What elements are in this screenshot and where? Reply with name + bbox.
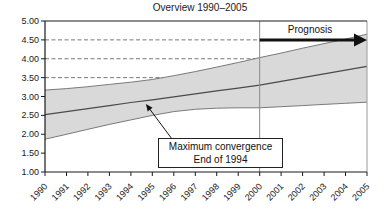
chart-title: Overview 1990–2005 bbox=[30, 2, 370, 13]
y-tick-label: 1.50 bbox=[21, 148, 39, 158]
x-tick-label: 1998 bbox=[200, 181, 221, 202]
x-tick-label: 1994 bbox=[114, 181, 135, 202]
y-tick-label: 2.00 bbox=[21, 129, 39, 139]
annotation-line-1: Maximum convergence bbox=[159, 140, 282, 153]
prognosis-label: Prognosis bbox=[265, 24, 355, 35]
x-tick-label: 2001 bbox=[264, 181, 285, 202]
x-tick-label: 2002 bbox=[286, 181, 307, 202]
x-tick-label: 2000 bbox=[243, 181, 264, 202]
annotation-box: Maximum convergence End of 1994 bbox=[158, 138, 283, 168]
y-tick-label: 2.50 bbox=[21, 110, 39, 120]
annotation-line-2: End of 1994 bbox=[159, 153, 282, 166]
x-tick-label: 1995 bbox=[135, 181, 156, 202]
x-tick-label: 1996 bbox=[157, 181, 178, 202]
y-tick-label: 4.50 bbox=[21, 35, 39, 45]
x-tick-label: 1992 bbox=[71, 181, 92, 202]
x-tick-label: 1991 bbox=[50, 181, 71, 202]
x-tick-label: 2004 bbox=[329, 181, 350, 202]
x-tick-label: 2003 bbox=[307, 181, 328, 202]
confidence-band bbox=[45, 34, 367, 139]
y-tick-label: 5.00 bbox=[21, 16, 39, 26]
y-tick-label: 3.50 bbox=[21, 73, 39, 83]
x-tick-label: 1990 bbox=[28, 181, 49, 202]
y-tick-label: 1.00 bbox=[21, 167, 39, 177]
chart: 5.004.504.003.503.002.502.001.501.001990… bbox=[0, 0, 389, 213]
x-tick-label: 1993 bbox=[93, 181, 114, 202]
x-tick-label: 1999 bbox=[221, 181, 242, 202]
x-tick-label: 2005 bbox=[350, 181, 371, 202]
y-tick-label: 3.00 bbox=[21, 92, 39, 102]
y-tick-label: 4.00 bbox=[21, 54, 39, 64]
x-tick-label: 1997 bbox=[178, 181, 199, 202]
